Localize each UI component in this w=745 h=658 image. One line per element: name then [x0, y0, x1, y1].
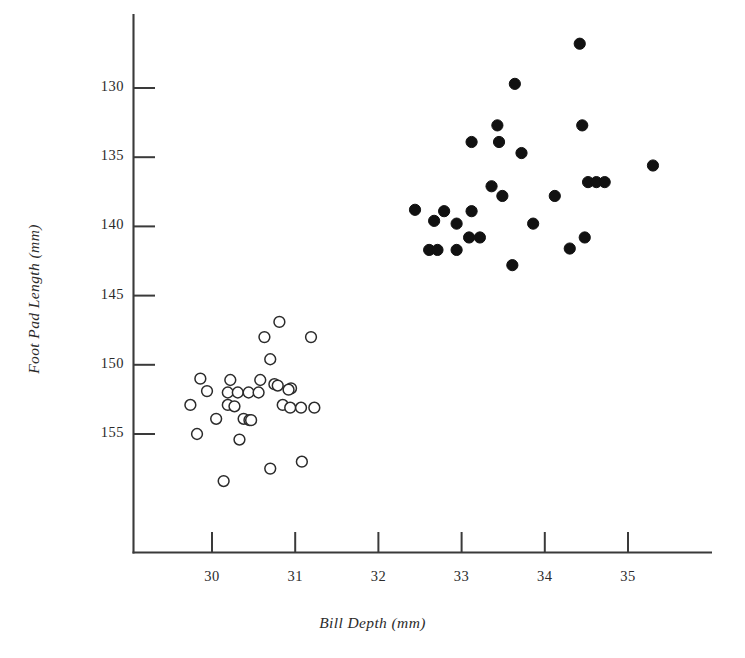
data-point-open [243, 387, 254, 398]
data-point-filled [577, 120, 588, 131]
data-point-filled [466, 136, 477, 147]
data-point-filled [474, 232, 485, 243]
data-point-filled [549, 190, 560, 201]
data-point-open [283, 384, 294, 395]
data-point-filled [574, 38, 585, 49]
data-point-filled [647, 160, 658, 171]
data-point-open [232, 387, 243, 398]
data-point-filled [509, 78, 520, 89]
data-point-open [202, 386, 213, 397]
data-point-filled [599, 177, 610, 188]
data-point-open [259, 332, 270, 343]
plot-canvas [0, 0, 745, 658]
x-tick-marks [212, 532, 628, 553]
data-point-open [225, 375, 236, 386]
data-point-open [274, 317, 285, 328]
x-tick-label: 33 [442, 568, 482, 585]
data-point-open [272, 380, 283, 391]
data-point-open [253, 387, 264, 398]
data-point-filled [451, 244, 462, 255]
axis-lines [133, 14, 713, 554]
x-tick-label: 31 [275, 568, 315, 585]
data-point-filled [564, 243, 575, 254]
open-circle-points [185, 317, 320, 487]
data-point-filled [463, 232, 474, 243]
data-point-open [296, 456, 307, 467]
y-tick-label: 150 [78, 355, 124, 372]
y-tick-label: 145 [78, 286, 124, 303]
data-point-open [218, 476, 229, 487]
data-point-filled [439, 206, 450, 217]
data-point-open [265, 354, 276, 365]
data-point-filled [492, 120, 503, 131]
x-tick-label: 35 [608, 568, 648, 585]
x-axis-title: Bill Depth (mm) [0, 614, 745, 632]
data-point-filled [507, 260, 518, 271]
data-point-filled [486, 181, 497, 192]
data-point-open [309, 402, 320, 413]
data-point-filled [497, 190, 508, 201]
data-point-open [185, 400, 196, 411]
data-point-filled [493, 136, 504, 147]
scatter-plot-figure: 155150145140135130 303132333435 Bill Dep… [0, 0, 745, 658]
data-point-filled [429, 215, 440, 226]
y-tick-label: 155 [78, 424, 124, 441]
data-point-filled [579, 232, 590, 243]
x-tick-label: 32 [358, 568, 398, 585]
data-point-open [265, 463, 276, 474]
data-point-filled [451, 218, 462, 229]
y-tick-label: 130 [78, 78, 124, 95]
data-point-open [195, 373, 206, 384]
data-point-filled [409, 204, 420, 215]
data-point-filled [516, 147, 527, 158]
y-tick-label: 135 [78, 147, 124, 164]
data-point-filled [466, 206, 477, 217]
data-point-open [192, 429, 203, 440]
data-point-open [285, 402, 296, 413]
data-point-open [306, 332, 317, 343]
x-tick-label: 30 [192, 568, 232, 585]
y-tick-marks [134, 88, 156, 434]
y-axis-title: Foot Pad Length (mm) [25, 179, 43, 419]
data-point-filled [432, 244, 443, 255]
data-point-open [246, 415, 257, 426]
data-point-open [211, 413, 222, 424]
data-point-open [255, 375, 266, 386]
y-tick-label: 140 [78, 216, 124, 233]
data-point-open [229, 401, 240, 412]
filled-circle-points [409, 38, 658, 271]
data-point-filled [528, 218, 539, 229]
data-point-open [222, 387, 233, 398]
data-point-open [234, 434, 245, 445]
data-point-open [296, 402, 307, 413]
x-tick-label: 34 [525, 568, 565, 585]
